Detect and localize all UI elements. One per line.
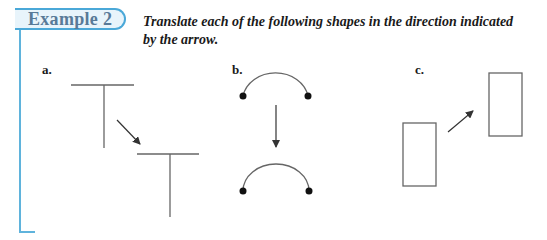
part-a-arrow xyxy=(117,120,140,144)
part-b-original-arc xyxy=(240,73,312,100)
arc-endpoint-dot xyxy=(240,93,247,100)
part-b-translated-arc xyxy=(240,164,313,195)
part-a-translated-t-shape xyxy=(137,154,199,217)
part-c-original-rectangle xyxy=(403,123,436,186)
part-c-arrow xyxy=(448,111,473,132)
arc-endpoint-dot xyxy=(305,93,312,100)
part-a-original-t-shape xyxy=(71,85,134,148)
figures xyxy=(0,0,547,240)
part-c-translated-rectangle xyxy=(489,73,522,136)
arc-endpoint-dot xyxy=(240,188,247,195)
arc-endpoint-dot xyxy=(306,188,313,195)
